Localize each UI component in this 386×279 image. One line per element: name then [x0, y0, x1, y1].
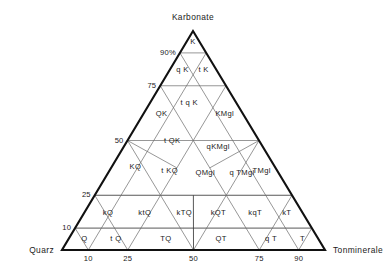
field-label-tq: t Q: [110, 234, 121, 243]
field-label-qt: q T: [265, 234, 277, 243]
field-label-qk: q K: [176, 65, 188, 74]
field-label-kt: kT: [282, 208, 291, 217]
field-label-tq: TQ: [160, 234, 171, 243]
tick-left-25: 25: [82, 190, 91, 199]
field-label-ktq: kTQ: [177, 208, 192, 217]
field-label-tkq: t KQ: [161, 166, 178, 175]
field-label-kq: KQ: [130, 162, 142, 171]
field-label-kqt: kqT: [248, 208, 262, 217]
tick-bottom-90: 90: [294, 254, 303, 263]
corner-label-quarz: Quarz: [29, 245, 54, 255]
tick-bottom-50: 50: [189, 254, 198, 263]
ternary-svg: Kq Kt Kt q KKMglQKt QKqKMglKQt KQQMglq T…: [0, 0, 386, 279]
tick-bottom-25: 25: [123, 254, 132, 263]
field-label-qkmgl: qKMgl: [207, 142, 230, 151]
field-label-tmgl: TMgl: [253, 166, 271, 175]
corner-labels-group: Karbonate Quarz Tonminerale: [29, 12, 383, 255]
field-label-kqt: kQT: [211, 208, 226, 217]
tick-left-10: 10: [62, 223, 71, 232]
field-label-tqk: t QK: [164, 136, 181, 145]
field-label-qk: QK: [156, 109, 168, 118]
field-label-t: T: [300, 234, 305, 243]
tick-left-75: 75: [147, 81, 156, 90]
field-label-kq: kQ: [103, 208, 113, 217]
field-label-qtmgl: q TMgl: [229, 168, 254, 177]
field-label-k: K: [190, 37, 195, 46]
field-label-qt: QT: [215, 234, 226, 243]
field-label-kmgl: KMgl: [215, 109, 234, 118]
field-label-ktq: ktQ: [138, 208, 151, 217]
field-label-q: Q: [81, 234, 87, 243]
field-label-tqk: t q K: [181, 98, 198, 107]
tick-left-50: 50: [115, 136, 124, 145]
tick-bottom-75: 75: [255, 254, 264, 263]
tick-bottom-10: 10: [84, 254, 93, 263]
field-label-qmgl: QMgl: [195, 168, 215, 177]
apex-label-karbonate: Karbonate: [172, 12, 214, 22]
gridlines-group: [75, 53, 312, 250]
tick-left-90: 90%: [160, 48, 176, 57]
corner-label-tonminerale: Tonminerale: [333, 245, 383, 255]
field-label-tk: t K: [198, 65, 208, 74]
ternary-diagram: Kq Kt Kt q KKMglQKt QKqKMglKQt KQQMglq T…: [0, 0, 386, 279]
